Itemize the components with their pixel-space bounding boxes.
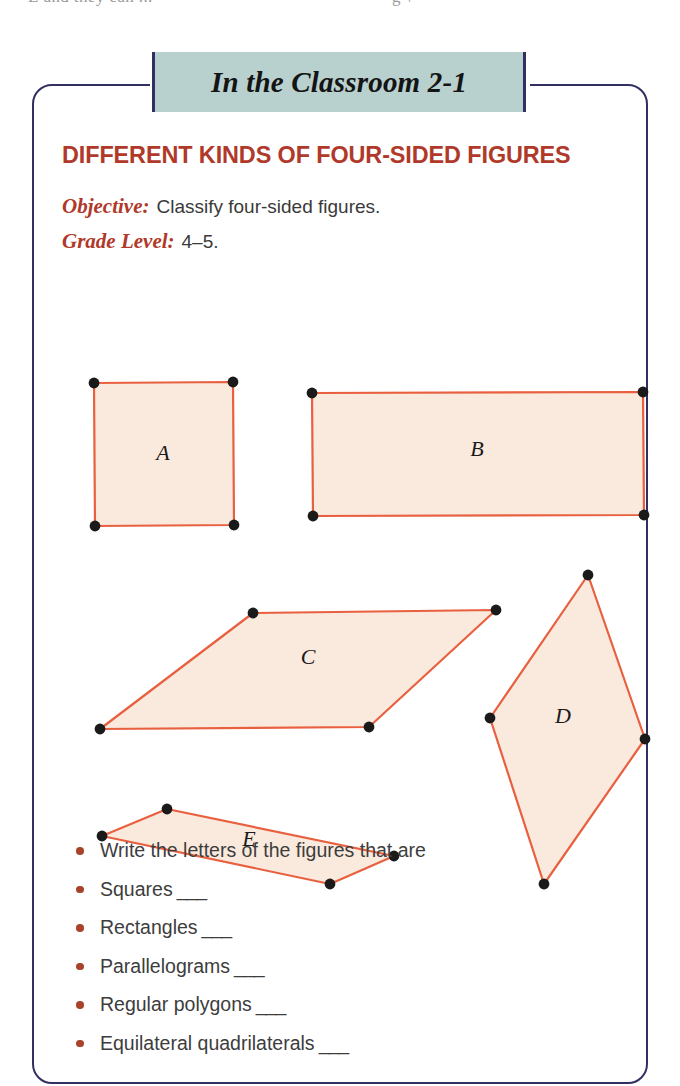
title-banner-text: In the Classroom 2-1 [211,66,467,99]
task-item: Write the letters of the figures that ar… [52,831,632,870]
figure-c-outline [100,610,496,729]
figure-a-vertex-4 [90,521,101,532]
bullet-icon [76,963,84,971]
figure-c-label: C [301,644,316,669]
figure-b: B [307,387,650,522]
clipped-top-text: E and they can ... g \ [0,0,680,7]
figure-d-vertex-1 [583,570,594,581]
figure-b-vertex-3 [639,510,650,521]
bullet-icon [76,886,84,894]
task-item: Equilateral quadrilaterals___ [52,1024,632,1063]
figure-e-vertex-1 [162,804,173,815]
task-item: Squares___ [52,870,632,909]
answer-blank[interactable]: ___ [319,1024,349,1063]
answer-blank[interactable]: ___ [234,947,264,986]
figure-c-vertex-2 [491,605,502,616]
figure-c-vertex-4 [95,724,106,735]
clipped-top-text-right: g \ [392,0,411,7]
task-item: Rectangles___ [52,908,632,947]
task-item-label: Write the letters of the figures that ar… [100,839,426,861]
activity-content: DIFFERENT KINDS OF FOUR-SIDED FIGURES Ob… [34,86,650,1086]
bullet-icon [76,1001,84,1009]
task-list: Write the letters of the figures that ar… [52,831,632,1062]
figure-b-vertex-2 [638,387,649,398]
clipped-top-text-left: E and they can ... [28,0,153,7]
answer-blank[interactable]: ___ [202,908,232,947]
figure-c-vertex-1 [248,608,259,619]
task-item-label: Equilateral quadrilaterals [100,1032,315,1054]
title-banner: In the Classroom 2-1 [152,52,526,112]
answer-blank[interactable]: ___ [256,985,286,1024]
answer-blank[interactable]: ___ [177,870,207,909]
task-item: Parallelograms___ [52,947,632,986]
figure-d-vertex-4 [485,713,496,724]
figure-c-vertex-3 [364,722,375,733]
figure-c: C [95,605,502,735]
figure-b-vertex-4 [308,511,319,522]
task-item: Regular polygons___ [52,985,632,1024]
bullet-icon [76,847,84,855]
bullet-icon [76,924,84,932]
task-item-label: Squares [100,878,173,900]
figures-diagram: ABCDE [34,86,650,866]
task-item-label: Parallelograms [100,955,230,977]
figure-b-label: B [470,436,483,461]
figure-b-vertex-1 [307,388,318,399]
figure-a-vertex-3 [229,520,240,531]
figure-a-vertex-1 [89,378,100,389]
figure-a: A [89,377,240,532]
task-item-label: Regular polygons [100,993,252,1015]
figure-d-label: D [554,703,571,728]
task-item-label: Rectangles [100,916,198,938]
activity-box: DIFFERENT KINDS OF FOUR-SIDED FIGURES Ob… [32,84,648,1084]
figure-d-vertex-2 [640,734,651,745]
figure-a-label: A [154,440,170,465]
figure-a-vertex-2 [228,377,239,388]
bullet-icon [76,1040,84,1048]
